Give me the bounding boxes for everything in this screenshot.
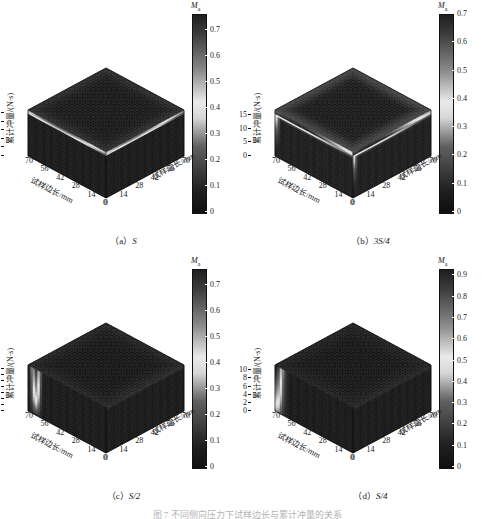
panel-c-caption: （c）S/2 [0, 489, 247, 502]
colorbar-tick-c: 0.2 [210, 411, 220, 419]
panel-b-caption: （b）3S/4 [247, 234, 494, 247]
x-tick-left-a: 70 [25, 157, 33, 165]
x-tick-left-d: 14 [334, 446, 342, 454]
x-tick-left-c: 14 [87, 446, 95, 454]
x-tick-right-c: 0 [104, 454, 108, 462]
colorbar-tick-b: 0.1 [457, 180, 467, 188]
z-axis-label-b: 累计冲量/(N·s) [251, 93, 262, 144]
colorbar-tick-c: 0.6 [210, 307, 220, 315]
z-tick-b: 5 [243, 138, 247, 146]
z-axis-label-c: 累计冲量/(N·s) [4, 348, 15, 399]
x-tick-left-b: 56 [288, 165, 296, 173]
z-tick-b: 15 [239, 111, 247, 119]
colorbar-tick-d: 0.7 [457, 314, 467, 322]
tick-mark [1, 404, 4, 405]
tick-mark [452, 296, 456, 297]
colorbar-tick-a: 0.1 [210, 182, 220, 190]
colorbar-tick-c: 0.7 [210, 281, 220, 289]
x-tick-right-a: 0 [104, 199, 108, 207]
colorbar-gradient-d [439, 269, 454, 469]
tick-mark [452, 402, 456, 403]
tick-mark [452, 317, 456, 318]
x-tick-left-d: 28 [319, 437, 327, 445]
x-tick-right-b: 0 [351, 199, 355, 207]
panel-a-surface-plot [26, 8, 186, 208]
colorbar-tick-b: 0 [457, 208, 461, 216]
colorbar-title-c: Ma [191, 256, 200, 267]
colorbar-tick-b: 0.3 [457, 123, 467, 131]
surface-svg-a [26, 8, 186, 208]
colorbar-tick-c: 0 [210, 463, 214, 471]
x-tick-left-a: 14 [87, 191, 95, 199]
colorbar-title-d: Ma [438, 256, 447, 267]
colorbar-tick-b: 0.5 [457, 67, 467, 75]
z-tick-d: 6 [243, 383, 247, 391]
figure-caption: 图 7 不同侧向压力下试样边长与累计冲量的关系 [0, 508, 494, 519]
panel-c: 02468101214 Ma 00.10.20.30.40.50.60.7 （c… [0, 255, 247, 508]
x-tick-right-a: 14 [120, 191, 128, 199]
tick-mark [205, 107, 209, 108]
colorbar-tick-b: 0.7 [457, 10, 467, 18]
x-tick-left-c: 28 [72, 437, 80, 445]
tick-mark [452, 445, 456, 446]
tick-mark [205, 133, 209, 134]
tick-mark [205, 29, 209, 30]
x-tick-right-a: 28 [135, 182, 143, 190]
colorbar-tick-d: 0.1 [457, 442, 467, 450]
colorbar-tick-c: 0.5 [210, 333, 220, 341]
panel-b-surface-plot [273, 8, 433, 208]
tick-mark [1, 410, 4, 411]
x-tick-right-d: 28 [382, 437, 390, 445]
tick-mark [452, 381, 456, 382]
colorbar-tick-d: 0 [457, 463, 461, 471]
tick-mark [248, 410, 251, 411]
z-tick-b: 0 [243, 152, 247, 160]
tick-mark [205, 310, 209, 311]
tick-mark [205, 336, 209, 337]
tick-mark [205, 440, 209, 441]
z-tick-d: 0 [243, 407, 247, 415]
z-tick-d: 10 [239, 366, 247, 374]
surface-cube-b [273, 8, 433, 208]
colorbar-tick-d: 0.4 [457, 378, 467, 386]
x-tick-left-a: 56 [41, 165, 49, 173]
surface-cube-d [273, 263, 433, 463]
colorbar-title-a: Ma [191, 1, 200, 12]
x-tick-right-d: 0 [351, 454, 355, 462]
colorbar-tick-b: 0.2 [457, 151, 467, 159]
tick-mark [205, 211, 209, 212]
colorbar-tick-c: 0.3 [210, 385, 220, 393]
tick-mark [1, 146, 4, 147]
tick-mark [205, 55, 209, 56]
tick-mark [205, 388, 209, 389]
surface-svg-c [26, 263, 186, 463]
surface-cube-c [26, 263, 186, 463]
panel-a-caption: （a）S [0, 234, 247, 247]
surface-svg-b [273, 8, 433, 208]
tick-mark [452, 211, 456, 212]
x-tick-right-b: 14 [367, 191, 375, 199]
x-tick-left-b: 42 [303, 174, 311, 182]
colorbar-title-b: Ma [438, 1, 447, 12]
z-axis-label-d: 累计冲量/(N·s) [251, 348, 262, 399]
x-tick-right-d: 14 [367, 446, 375, 454]
colorbar-tick-a: 0 [210, 208, 214, 216]
panel-d-surface-plot [273, 263, 433, 463]
panel-d-caption: （d）S/4 [247, 489, 494, 502]
colorbar-tick-a: 0.5 [210, 78, 220, 86]
x-tick-left-b: 14 [334, 191, 342, 199]
colorbar-tick-a: 0.3 [210, 130, 220, 138]
z-tick-d: 4 [243, 391, 247, 399]
tick-mark [452, 423, 456, 424]
colorbar-tick-d: 0.5 [457, 357, 467, 365]
surface-svg-d [273, 263, 433, 463]
colorbar-tick-d: 0.6 [457, 335, 467, 343]
panel-b: 051015 Ma 00.10.20.30.40.50.60.7 （b）3S/4… [247, 0, 494, 253]
tick-mark [452, 154, 456, 155]
x-tick-right-c: 14 [120, 446, 128, 454]
x-tick-left-b: 28 [319, 182, 327, 190]
x-tick-left-a: 28 [72, 182, 80, 190]
colorbar-tick-c: 0.4 [210, 359, 220, 367]
tick-mark [205, 284, 209, 285]
colorbar-tick-b: 0.4 [457, 95, 467, 103]
